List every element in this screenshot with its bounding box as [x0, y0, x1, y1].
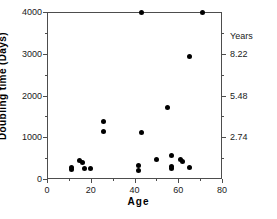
y-tick [43, 96, 47, 97]
y2-tick [222, 54, 226, 55]
x-tick-minor [113, 179, 114, 181]
x-axis-title: Age [0, 196, 277, 207]
y-tick-label: 0 [8, 174, 42, 184]
y2-tick-label: 5.48 [230, 91, 248, 101]
y-tick-label: 1000 [8, 132, 42, 142]
data-point [101, 129, 106, 134]
data-point [139, 130, 144, 135]
data-point [136, 163, 141, 168]
x-tick-label: 80 [209, 185, 235, 195]
y2-tick [222, 137, 226, 138]
y2-tick-minor [222, 75, 224, 76]
data-point [154, 157, 159, 162]
y-axis-line [47, 12, 48, 179]
data-point [187, 54, 192, 59]
x-tick-label: 60 [165, 185, 191, 195]
x-tick-label: 0 [34, 185, 60, 195]
x-tick-label: 40 [122, 185, 148, 195]
data-point [139, 10, 144, 15]
data-point [200, 10, 205, 15]
y-axis-title: Doubling time (Days) [0, 32, 8, 140]
y-tick [43, 12, 47, 13]
data-point [187, 165, 192, 170]
y2-tick-minor [222, 116, 224, 117]
x-tick [222, 179, 223, 183]
data-point [165, 105, 170, 110]
x-tick [47, 179, 48, 183]
plot-area [47, 12, 222, 179]
x-tick-minor [69, 179, 70, 181]
data-point [88, 166, 93, 171]
data-point [80, 160, 85, 165]
y-tick-minor [45, 33, 47, 34]
x-tick-label: 20 [78, 185, 104, 195]
x-tick-minor [200, 179, 201, 181]
x-tick [178, 179, 179, 183]
data-point [169, 153, 174, 158]
scatter-plot-figure: Doubling time (Days) Age Years 010002000… [0, 0, 277, 219]
y-tick-label: 4000 [8, 7, 42, 17]
data-point [180, 159, 185, 164]
y2-tick-minor [222, 33, 224, 34]
y2-tick [222, 96, 226, 97]
y2-axis-title: Years [230, 31, 253, 41]
data-point [82, 166, 87, 171]
y2-tick-label: 2.74 [230, 132, 248, 142]
data-point [169, 166, 174, 171]
data-point [136, 168, 141, 173]
top-axis-line [47, 12, 222, 13]
x-tick-minor [156, 179, 157, 181]
data-point [69, 167, 74, 172]
y-tick-minor [45, 158, 47, 159]
y-tick [43, 54, 47, 55]
y2-tick-minor [222, 158, 224, 159]
y-tick-label: 3000 [8, 49, 42, 59]
x-tick [91, 179, 92, 183]
y-tick-minor [45, 75, 47, 76]
y-tick [43, 137, 47, 138]
data-point [101, 119, 106, 124]
y-tick-label: 2000 [8, 91, 42, 101]
y2-tick-label: 8.22 [230, 49, 248, 59]
x-tick [135, 179, 136, 183]
y-tick-minor [45, 116, 47, 117]
